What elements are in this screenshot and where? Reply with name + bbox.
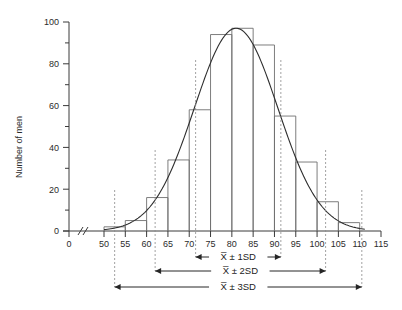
y-tick-label: 0 (54, 226, 59, 236)
x-tick-label: 95 (291, 239, 301, 249)
histogram-bar (317, 202, 338, 231)
sd-range-annotations: X̅ ± 1SDX̅ ± 2SDX̅ ± 3SD (115, 251, 362, 292)
sd-range-label: X̅ ± 3SD (221, 281, 256, 292)
histogram-bar (189, 110, 210, 231)
x-tick-label: 110 (353, 239, 367, 249)
x-tick-label: 65 (163, 239, 173, 249)
x-tick-label: 60 (142, 239, 152, 249)
x-tick-label: 55 (120, 239, 130, 249)
x-tick-label: 70 (184, 239, 194, 249)
x-tick-label: 80 (227, 239, 237, 249)
histogram-bar (125, 221, 146, 231)
histogram-bar (338, 223, 359, 231)
histogram-bar (296, 162, 317, 231)
normal-distribution-chart: Number of men 020406080100 0505560657075… (0, 0, 402, 310)
x-tick-label: 85 (248, 239, 258, 249)
y-axis-ticks (63, 22, 69, 231)
x-tick-label: 115 (374, 239, 388, 249)
histogram-bar (253, 45, 274, 231)
histogram-bars (104, 28, 360, 231)
x-tick-label: 75 (206, 239, 216, 249)
x-tick-label: 50 (99, 239, 109, 249)
y-axis-tick-labels: 020406080100 (44, 17, 59, 236)
histogram-bar (211, 35, 232, 231)
y-tick-label: 60 (49, 101, 59, 111)
y-tick-label: 40 (49, 143, 59, 153)
histogram-figure: Number of men 020406080100 0505560657075… (0, 0, 402, 310)
x-tick-label: 90 (269, 239, 279, 249)
x-tick-label: 0 (66, 239, 71, 249)
histogram-bar (147, 198, 168, 231)
y-tick-label: 20 (49, 185, 59, 195)
histogram-bar (232, 28, 253, 231)
y-tick-label: 80 (49, 59, 59, 69)
y-axis-title: Number of men (14, 116, 24, 178)
y-tick-label: 100 (44, 17, 59, 27)
x-tick-label: 105 (331, 239, 346, 249)
x-axis-ticks (69, 231, 381, 237)
histogram-bar (274, 116, 295, 231)
x-tick-label: 100 (310, 239, 325, 249)
sd-range-label: X̅ ± 2SD (223, 265, 258, 276)
sd-range-label: X̅ ± 1SD (221, 251, 256, 262)
